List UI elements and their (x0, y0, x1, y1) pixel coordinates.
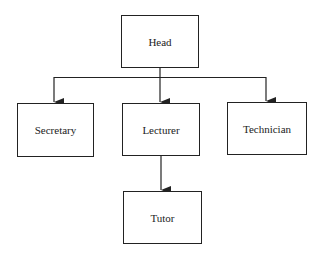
node-label: Lecturer (142, 124, 179, 136)
node-label: Tutor (150, 212, 174, 224)
node-label: Technician (243, 123, 291, 135)
node-secretary: Secretary (17, 103, 94, 157)
node-tutor: Tutor (123, 191, 202, 244)
node-label: Secretary (35, 124, 77, 136)
node-lecturer: Lecturer (122, 103, 200, 156)
node-technician: Technician (227, 102, 307, 155)
node-label: Head (148, 36, 171, 48)
node-head: Head (121, 15, 199, 68)
